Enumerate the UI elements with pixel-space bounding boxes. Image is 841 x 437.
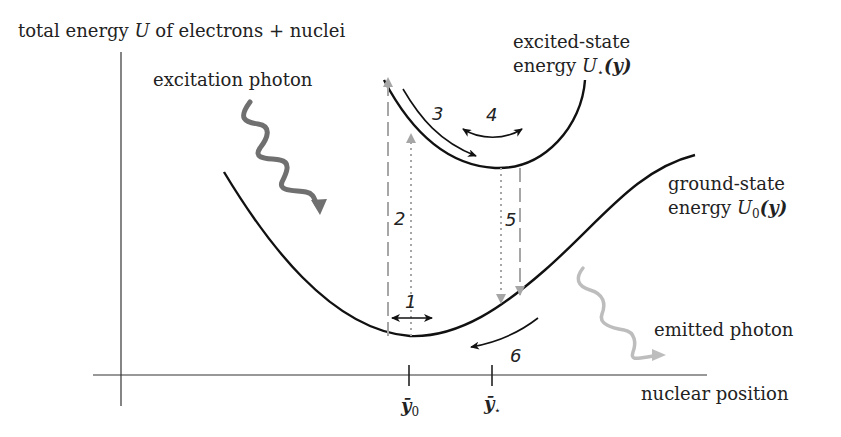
tick-label-ystar: ȳ⋆: [483, 393, 501, 417]
step-6-arrow: [471, 318, 538, 347]
step-4-arrow: [463, 129, 522, 137]
x-axis-label: nuclear position: [641, 383, 789, 404]
step-1-label: 1: [405, 291, 416, 312]
emitted-photon-icon: [578, 268, 666, 361]
ground-state-label: ground-state energy U0(y): [668, 173, 791, 221]
step-6-label: 6: [510, 345, 521, 366]
step-2-label: 2: [394, 208, 405, 229]
step-3-label: 3: [432, 103, 443, 124]
excitation-photon-label: excitation photon: [153, 69, 313, 90]
step-4-label: 4: [486, 104, 497, 125]
excitation-photon-icon: [244, 102, 327, 215]
excited-state-label: excited-state energy U⋆(y): [513, 31, 636, 79]
tick-label-y0: ȳ0: [400, 395, 419, 419]
excited-state-curve: [384, 80, 585, 168]
step-5-emission-arrows: [501, 168, 520, 303]
y-axis-label: total energy U of electrons + nuclei: [18, 20, 345, 41]
step-5-label: 5: [505, 209, 516, 230]
energy-diagram: total energy U of electrons + nuclei nuc…: [0, 0, 841, 437]
ground-state-curve: [224, 155, 695, 336]
emitted-photon-label: emitted photon: [654, 319, 794, 340]
